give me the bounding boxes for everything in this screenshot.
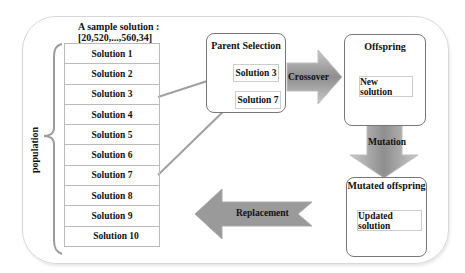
population-row: Solution 4 [65,105,159,125]
mutation-arrow-shape [350,125,418,178]
sample-solution-caption: A sample solution : [20,520,...,560,34] [78,21,159,43]
offspring-box: Offspring New solution [344,34,426,126]
population-label: population [29,127,40,173]
population-row: Solution 1 [65,44,159,64]
replacement-label: Replacement [236,208,289,218]
sample-solution-label: A sample solution : [78,21,159,32]
mutation-label: Mutation [368,137,406,147]
new-solution-item: New solution [359,76,413,97]
population-table: Solution 1 Solution 2 Solution 3 Solutio… [64,43,160,247]
population-row: Solution 9 [65,206,159,226]
population-row: Solution 7 [65,166,159,186]
population-row: Solution 5 [65,125,159,145]
population-row: Solution 10 [65,227,159,247]
mutated-offspring-box: Mutated offspring Updated solution [346,177,427,257]
sample-solution-value: [20,520,...,560,34] [78,32,159,43]
mutated-offspring-title: Mutated offspring [347,180,426,191]
population-row: Solution 6 [65,145,159,165]
population-row: Solution 8 [65,186,159,206]
crossover-label: Crossover [288,72,329,82]
population-row: Solution 2 [65,64,159,84]
parent-selection-title: Parent Selection [207,40,285,51]
population-row: Solution 3 [65,85,159,105]
selected-parent-1: Solution 3 [233,64,279,82]
selected-parent-2: Solution 7 [235,91,281,109]
updated-solution-item: Updated solution [357,210,422,231]
population-brace [44,44,62,254]
parent-selection-box: Parent Selection Solution 3 Solution 7 [206,33,286,113]
offspring-title: Offspring [345,41,425,52]
